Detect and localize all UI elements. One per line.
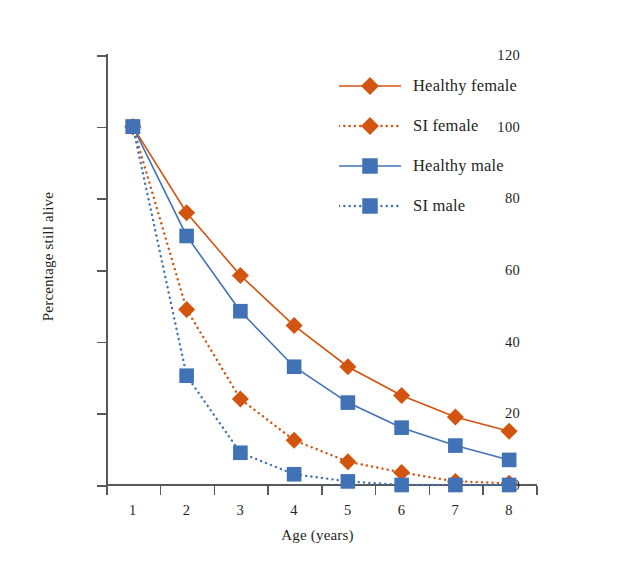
legend-label-healthy-female: Healthy female bbox=[413, 76, 517, 96]
x-tick-label: 6 bbox=[382, 502, 422, 519]
x-tick-label: 2 bbox=[167, 502, 207, 519]
legend-label-si-male: SI male bbox=[413, 196, 465, 216]
x-tick-mark bbox=[160, 486, 162, 495]
y-tick-label: 120 bbox=[460, 47, 520, 64]
legend-item-si-male: SI male bbox=[339, 186, 589, 226]
x-tick-mark bbox=[536, 486, 538, 495]
legend-marker-square-icon bbox=[362, 198, 377, 213]
y-tick-mark bbox=[97, 413, 106, 415]
x-tick-label: 5 bbox=[328, 502, 368, 519]
legend-swatch-healthy-female bbox=[339, 66, 401, 106]
x-tick-label: 3 bbox=[220, 502, 260, 519]
x-tick-mark bbox=[214, 486, 216, 495]
x-tick-label: 1 bbox=[113, 502, 153, 519]
x-tick-mark bbox=[106, 486, 108, 495]
legend-label-si-female: SI female bbox=[413, 116, 478, 136]
x-tick-mark bbox=[375, 486, 377, 495]
legend-marker-square-icon bbox=[362, 158, 377, 173]
legend-item-healthy-male: Healthy male bbox=[339, 146, 589, 186]
legend-marker-diamond-icon bbox=[361, 77, 379, 95]
legend-item-si-female: SI female bbox=[339, 106, 589, 146]
legend-swatch-si-male bbox=[339, 186, 401, 226]
legend-marker-diamond-icon bbox=[361, 117, 379, 135]
y-axis-title: Percentage still alive bbox=[40, 147, 57, 367]
survival-curve-chart: Percentage still alive 020406080100120 1… bbox=[0, 0, 635, 580]
y-tick-label: 40 bbox=[460, 333, 520, 350]
y-tick-mark bbox=[97, 55, 106, 57]
y-tick-mark bbox=[97, 342, 106, 344]
y-tick-label: 60 bbox=[460, 262, 520, 279]
x-axis-ticks: 12345678 bbox=[106, 486, 537, 526]
y-tick-mark bbox=[97, 198, 106, 200]
x-tick-mark bbox=[267, 486, 269, 495]
legend-swatch-healthy-male bbox=[339, 146, 401, 186]
y-tick-mark bbox=[97, 485, 106, 487]
legend-label-healthy-male: Healthy male bbox=[413, 156, 504, 176]
x-tick-label: 4 bbox=[274, 502, 314, 519]
legend-swatch-si-female bbox=[339, 106, 401, 146]
x-tick-mark bbox=[321, 486, 323, 495]
x-tick-label: 8 bbox=[489, 502, 529, 519]
x-axis-title: Age (years) bbox=[0, 527, 635, 544]
legend-item-healthy-female: Healthy female bbox=[339, 66, 589, 106]
y-tick-mark bbox=[97, 270, 106, 272]
x-tick-mark bbox=[482, 486, 484, 495]
x-tick-label: 7 bbox=[435, 502, 475, 519]
legend: Healthy female SI female Healthy male SI… bbox=[339, 66, 589, 226]
y-tick-mark bbox=[97, 127, 106, 129]
x-tick-mark bbox=[429, 486, 431, 495]
y-tick-label: 20 bbox=[460, 405, 520, 422]
